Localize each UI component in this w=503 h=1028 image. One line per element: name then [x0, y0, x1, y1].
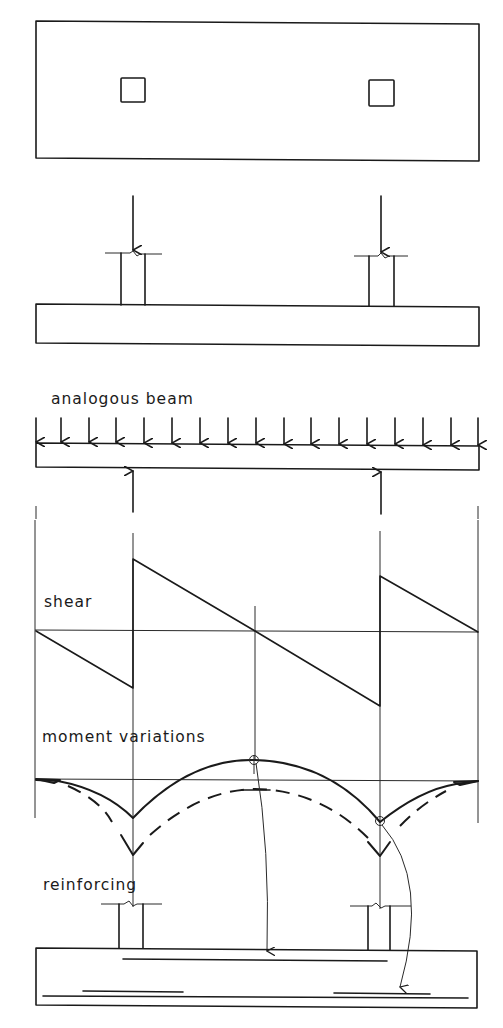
top-reinforcing-bar	[123, 959, 387, 961]
uniform-load-arrows	[36, 418, 478, 445]
column-stub-right	[354, 253, 408, 306]
shear-label: shear	[44, 593, 92, 611]
shear-curve	[36, 559, 478, 706]
combined-footing-diagram: analogous beam	[0, 0, 503, 1028]
analogous-beam-label: analogous beam	[51, 390, 194, 408]
column-stub-reinf-left	[101, 901, 162, 948]
moment-solid-tip-right	[454, 781, 478, 785]
moment-dashed-curve-right	[400, 791, 446, 826]
bottom-continuous-bar	[43, 996, 468, 998]
bottom-short-bar-left	[83, 991, 183, 992]
beam-outline	[36, 443, 479, 470]
elevation-view	[36, 196, 479, 346]
footing-section	[36, 948, 477, 1008]
bottom-short-bar-right	[334, 993, 430, 994]
reinforcing-label: reinforcing	[43, 876, 137, 894]
moment-dashed-curve-mid	[150, 789, 368, 838]
column-stub-reinf-right	[350, 903, 411, 950]
column-stub-left	[105, 251, 162, 305]
leader-arrow-top-bar	[256, 763, 268, 951]
column-plan-right	[369, 80, 394, 106]
column-plan-left	[121, 78, 145, 102]
moment-dashed-v-left	[121, 835, 143, 855]
shear-diagram: shear	[35, 559, 478, 706]
analogous-beam: analogous beam	[36, 390, 479, 514]
guide-lines	[35, 506, 478, 909]
moment-dashed-curve-left	[68, 786, 112, 822]
plan-view	[36, 21, 479, 161]
moment-variations-label: moment variations	[42, 728, 206, 746]
moment-baseline	[35, 779, 478, 781]
footing-elevation	[36, 304, 479, 346]
footing-plan-outline	[36, 21, 479, 161]
moment-dashed-v-right	[368, 842, 390, 856]
